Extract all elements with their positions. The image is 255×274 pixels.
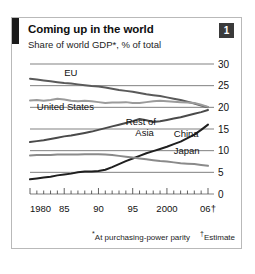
chart-subtitle: Share of world GDP*, % of total: [28, 39, 161, 50]
plot-area: 051015202530 1980859095200006† EUUnited …: [12, 58, 242, 228]
line-chart-svg: 051015202530 1980859095200006† EUUnited …: [12, 58, 242, 228]
yaxis-tick-label: 30: [218, 59, 230, 70]
xaxis-tick-label: 06†: [200, 203, 216, 214]
chart-card: Coming up in the world Share of world GD…: [11, 17, 242, 249]
xaxis-tick-label: 1980: [30, 203, 51, 214]
series-label: United States: [37, 101, 94, 112]
xaxis-tick-label: 90: [93, 203, 104, 214]
yaxis-labels-group: 051015202530: [218, 59, 230, 200]
chart-title: Coming up in the world: [28, 23, 154, 35]
yaxis-tick-label: 15: [218, 124, 230, 135]
footnote-ppp: *At purchasing-power parity: [92, 233, 190, 242]
xaxis-ticks-group: [30, 188, 208, 194]
footnote-estimate: †Estimate: [200, 233, 235, 242]
yaxis-tick-label: 5: [218, 167, 224, 178]
yaxis-tick-label: 25: [218, 80, 230, 91]
footnote-ppp-text: At purchasing-power parity: [95, 233, 190, 242]
series-labels-group: EUUnited StatesRest ofAsiaChinaJapan: [37, 67, 200, 156]
yaxis-tick-label: 10: [218, 145, 230, 156]
series-label: Rest of: [126, 116, 156, 127]
xaxis-tick-label: 2000: [156, 203, 177, 214]
xaxis-tick-label: 85: [59, 203, 70, 214]
footnote-estimate-text: Estimate: [204, 233, 235, 242]
yaxis-tick-label: 0: [218, 189, 224, 200]
series-label: Asia: [135, 127, 154, 138]
footnotes: *At purchasing-power parity†Estimate: [12, 230, 235, 246]
xaxis-labels-group: 1980859095200006†: [30, 203, 216, 214]
series-label: EU: [64, 67, 77, 78]
series-label: China: [174, 128, 200, 139]
xaxis-tick-label: 95: [127, 203, 138, 214]
series-label: Japan: [174, 145, 200, 156]
chart-number-badge: 1: [219, 23, 234, 38]
corner-accent-bar: [12, 18, 19, 44]
yaxis-tick-label: 20: [218, 102, 230, 113]
